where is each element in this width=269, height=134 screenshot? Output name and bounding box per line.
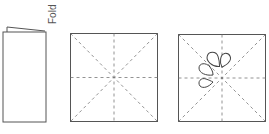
diagram-canvas <box>0 0 269 134</box>
petal-square <box>179 35 266 122</box>
petal-shapes <box>199 51 232 88</box>
folded-card <box>3 27 46 122</box>
creased-square <box>71 34 158 122</box>
